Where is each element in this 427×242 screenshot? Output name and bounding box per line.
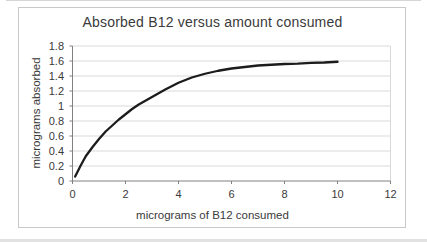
y-tick-label: 1.4 — [24, 70, 64, 83]
y-tick-label: 1 — [24, 100, 64, 113]
x-tick-label: 2 — [111, 188, 141, 201]
x-tick-label: 6 — [217, 188, 247, 201]
plot-area — [0, 0, 427, 242]
y-tick-label: 0.6 — [24, 130, 64, 143]
y-tick-label: 1.8 — [24, 40, 64, 53]
data-curve-absorbed-b12 — [75, 62, 337, 177]
y-tick-label: 1.6 — [24, 55, 64, 68]
x-tick-label: 12 — [376, 188, 406, 201]
x-tick-label: 10 — [323, 188, 353, 201]
x-tick-label: 8 — [270, 188, 300, 201]
y-tick-label: 0.8 — [24, 115, 64, 128]
y-tick-label: 0.4 — [24, 145, 64, 158]
y-tick-label: 1.2 — [24, 85, 64, 98]
chart-figure: Absorbed B12 versus amount consumed micr… — [0, 0, 427, 242]
y-tick-label: 0 — [24, 175, 64, 188]
x-tick-label: 0 — [58, 188, 88, 201]
x-tick-label: 4 — [164, 188, 194, 201]
y-tick-label: 0.2 — [24, 160, 64, 173]
